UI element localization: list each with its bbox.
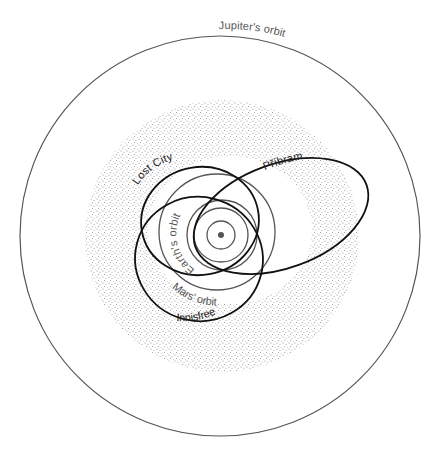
sun-icon (218, 232, 224, 238)
orbit-diagram: Jupiter's orbit Lost City Příbram Earth'… (0, 0, 438, 453)
asteroid-belt (0, 0, 438, 453)
